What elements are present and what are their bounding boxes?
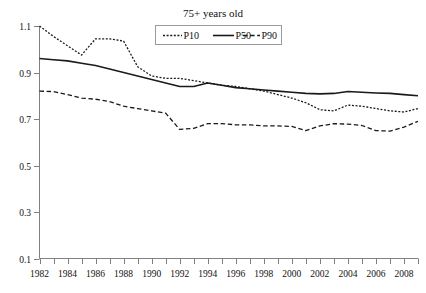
y-axis-tick-labels: 0.10.30.50.70.91.1 <box>19 22 31 265</box>
y-axis-ticks <box>34 27 40 260</box>
x-axis-tick-labels: 1982198419861988199019921994199619982000… <box>30 269 414 279</box>
y-tick-label: 0.3 <box>19 208 31 218</box>
x-tick-label: 1990 <box>142 269 161 279</box>
series-line-p90 <box>40 91 419 131</box>
legend-label-p10: P10 <box>184 30 200 41</box>
y-tick-label: 1.1 <box>19 22 31 32</box>
x-tick-label: 1994 <box>198 269 217 279</box>
x-axis-ticks <box>41 259 419 265</box>
x-tick-label: 1996 <box>226 269 245 279</box>
chart-title: 75+ years old <box>183 7 243 19</box>
x-tick-label: 2006 <box>366 269 385 279</box>
x-tick-label: 1998 <box>254 269 273 279</box>
series-line-p50 <box>40 59 419 96</box>
line-chart: 75+ years old 0.10.30.50.70.91.1 1982198… <box>0 0 426 293</box>
legend-label-p90: P90 <box>262 30 278 41</box>
x-tick-label: 1984 <box>58 269 77 279</box>
x-tick-label: 2008 <box>394 269 413 279</box>
x-tick-label: 1988 <box>114 269 133 279</box>
x-tick-label: 2000 <box>282 269 301 279</box>
y-tick-label: 0.5 <box>19 162 31 172</box>
x-tick-label: 1986 <box>86 269 105 279</box>
x-tick-label: 1982 <box>30 269 49 279</box>
x-tick-label: 1992 <box>170 269 189 279</box>
y-tick-label: 0.7 <box>19 115 31 125</box>
x-tick-label: 2002 <box>310 269 329 279</box>
y-tick-label: 0.1 <box>19 255 31 265</box>
y-tick-label: 0.9 <box>19 69 31 79</box>
chart-figure: 75+ years old 0.10.30.50.70.91.1 1982198… <box>0 0 426 293</box>
x-tick-label: 2004 <box>338 269 357 279</box>
